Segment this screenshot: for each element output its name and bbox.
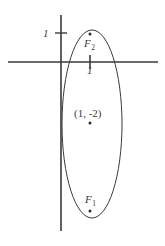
- center-dot: [89, 122, 92, 125]
- focus-1-label-subscript: 1: [92, 199, 96, 208]
- center-coordinate-label: (1, -2): [74, 108, 102, 119]
- focus-2-label: F2: [84, 38, 94, 49]
- figure-canvas: [0, 0, 165, 246]
- focus-1-label: F1: [85, 194, 95, 205]
- focus-2-label-subscript: 2: [91, 43, 95, 52]
- x-axis-tick-label: 1: [87, 65, 93, 76]
- ellipse-curve: [62, 30, 122, 218]
- y-axis-tick-label: 1: [43, 28, 49, 39]
- focus-2-label-base: F: [84, 37, 91, 49]
- focus-2-dot: [89, 33, 92, 36]
- focus-1-dot: [89, 210, 92, 213]
- ellipse-figure: 1 1 F2 (1, -2) F1: [0, 0, 165, 246]
- focus-1-label-base: F: [85, 193, 92, 205]
